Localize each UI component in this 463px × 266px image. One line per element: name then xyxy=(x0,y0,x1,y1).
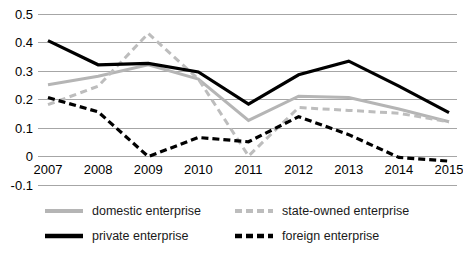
legend-item-private-enterprise[interactable]: private enterprise xyxy=(0,229,220,243)
legend-item-state-owned-enterprise[interactable]: state-owned enterprise xyxy=(220,204,463,218)
dashed-black-line-icon xyxy=(234,229,274,243)
line-chart-figure: 0.50.40.30.20.10-0.1 2007200820092010201… xyxy=(0,0,463,266)
y-axis-tick-label: 0.5 xyxy=(15,7,33,22)
x-axis-tick-label: 2010 xyxy=(184,162,213,177)
x-axis-tick-label: 2012 xyxy=(284,162,313,177)
solid-gray-line-icon xyxy=(44,204,84,218)
solid-black-line-icon xyxy=(44,229,84,243)
y-axis-tick-label: 0.4 xyxy=(15,35,33,50)
x-axis-tick-label: 2011 xyxy=(235,162,263,177)
legend-row-2: private enterprise foreign enterprise xyxy=(0,223,463,248)
legend-item-foreign-enterprise[interactable]: foreign enterprise xyxy=(220,229,463,243)
x-axis-tick-label: 2013 xyxy=(334,162,363,177)
legend-label-foreign-enterprise: foreign enterprise xyxy=(282,229,379,243)
x-axis-tick-labels: 200720082009201020112012201320142015 xyxy=(34,162,463,177)
y-axis-tick-label: -0.1 xyxy=(11,178,33,193)
x-axis-tick-label: 2014 xyxy=(384,162,413,177)
y-axis-tick-labels: 0.50.40.30.20.10-0.1 xyxy=(11,7,33,193)
y-axis-tick-label: 0.3 xyxy=(15,64,33,79)
y-axis-tick-label: 0.1 xyxy=(15,121,33,136)
gridlines xyxy=(38,15,457,186)
y-axis-tick-label: 0 xyxy=(26,149,33,164)
legend-item-domestic-enterprise[interactable]: domestic enterprise xyxy=(0,204,220,218)
y-axis-tick-label: 0.2 xyxy=(15,92,33,107)
legend-label-domestic-enterprise: domestic enterprise xyxy=(92,204,201,218)
series-line-domestic-enterprise xyxy=(48,65,449,122)
dashed-gray-line-icon xyxy=(234,204,274,218)
x-axis-tick-label: 2015 xyxy=(435,162,463,177)
legend-row-1: domestic enterprise state-owned enterpri… xyxy=(0,198,463,223)
x-axis-tick-label: 2008 xyxy=(84,162,113,177)
x-axis-tick-label: 2007 xyxy=(34,162,63,177)
series-line-state-owned-enterprise xyxy=(48,33,449,156)
legend-label-state-owned-enterprise: state-owned enterprise xyxy=(282,204,409,218)
data-series-lines xyxy=(48,33,449,161)
series-line-private-enterprise xyxy=(48,41,449,113)
figure-caption xyxy=(0,254,463,266)
legend-label-private-enterprise: private enterprise xyxy=(92,229,189,243)
chart-legend: domestic enterprise state-owned enterpri… xyxy=(0,198,463,248)
x-axis-tick-label: 2009 xyxy=(134,162,163,177)
